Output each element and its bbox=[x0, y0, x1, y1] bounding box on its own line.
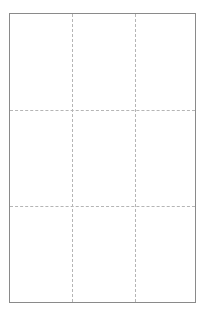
grid-cell-r1c1 bbox=[10, 14, 72, 110]
grid-cell-r1c3 bbox=[136, 14, 195, 110]
grid-cell-r3c3 bbox=[136, 207, 195, 302]
grid-cell-r2c3 bbox=[136, 111, 195, 206]
grid-frame bbox=[9, 13, 196, 303]
grid-cell-r3c2 bbox=[73, 207, 135, 302]
grid-cell-r2c1 bbox=[10, 111, 72, 206]
grid-cell-r2c2 bbox=[73, 111, 135, 206]
grid-cell-r3c1 bbox=[10, 207, 72, 302]
grid-cell-r1c2 bbox=[73, 14, 135, 110]
